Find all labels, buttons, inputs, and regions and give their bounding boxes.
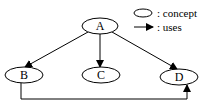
legend-concept-icon — [134, 9, 152, 17]
edge-a-to-b — [25, 32, 88, 67]
node-a-label: A — [96, 19, 105, 33]
edge-a-to-d — [112, 32, 177, 69]
legend-concept-label: : concept — [157, 7, 197, 19]
legend-uses-label: : uses — [157, 21, 182, 33]
edge-b-to-d — [21, 83, 187, 99]
legend: : concept : uses — [134, 7, 197, 33]
concept-diagram: A B C D : concept : uses — [0, 0, 213, 107]
node-b: B — [5, 67, 43, 83]
node-c: C — [82, 67, 120, 83]
node-c-label: C — [97, 68, 105, 82]
node-b-label: B — [20, 68, 28, 82]
node-d: D — [160, 69, 198, 85]
node-a: A — [82, 18, 118, 34]
node-d-label: D — [175, 70, 184, 84]
